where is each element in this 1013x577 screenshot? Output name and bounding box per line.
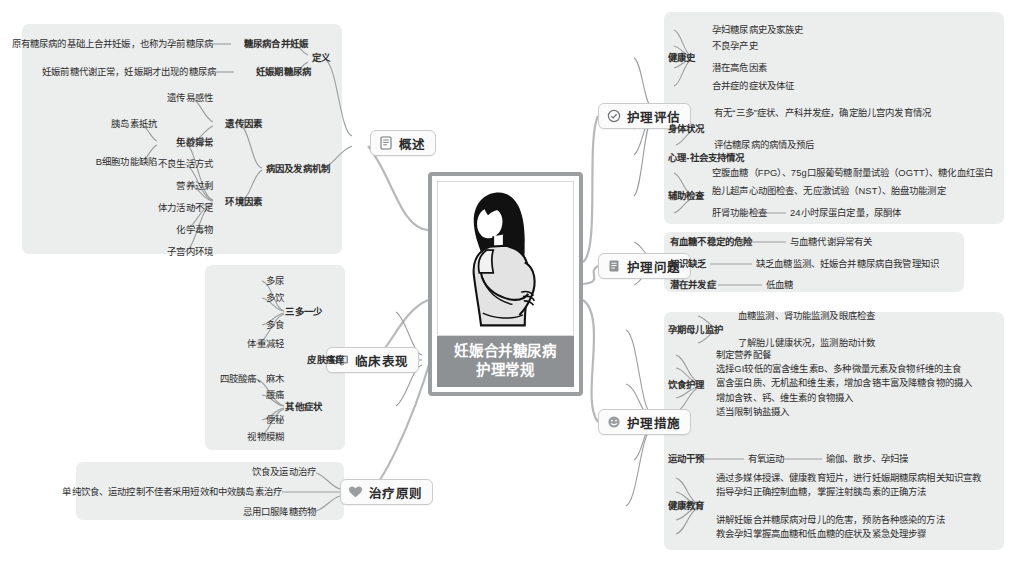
overview-environment-item-4[interactable]: 化学毒物 xyxy=(176,224,213,236)
measures-group-3-item-1[interactable]: 指导孕妇正确控制血糖，掌握注射胰岛素的正确方法 xyxy=(716,486,926,498)
measures-group-3-item-0[interactable]: 通过多媒体授课、健康教育短片，进行妊娠期糖尿病相关知识宣教 xyxy=(716,472,981,484)
assessment-group-1-label[interactable]: 身体状况 xyxy=(668,123,705,135)
measures-group-2-chain[interactable]: 瑜伽、散步、孕妇操 xyxy=(826,453,908,465)
measures-group-0-item-0[interactable]: 血糖监测、肾功能监测及眼底检查 xyxy=(738,310,875,322)
measures-group-1-item-2[interactable]: 富含蛋白质、无机盐和维生素，增加含铬丰富及降糖食物的摄入 xyxy=(716,377,972,389)
heart-icon xyxy=(348,485,363,500)
center-title: 妊娠合并糖尿病 护理常规 xyxy=(437,336,574,387)
measures-group-0-item-1[interactable]: 了解胎儿健康状况，监测胎动计数 xyxy=(738,337,875,349)
clinical-group-0-item-0[interactable]: 多尿 xyxy=(266,275,284,287)
overview-environment-item-5[interactable]: 子宫内环境 xyxy=(167,246,213,258)
assessment-group-0-item-2[interactable]: 潜在高危因素 xyxy=(712,62,767,74)
assessment-group-3-item-1[interactable]: 胎儿超声心动图检查、无应激试验（NST）、胎盘功能测定 xyxy=(712,185,946,197)
clinical-group-0-item-3[interactable]: 体重减轻 xyxy=(247,338,284,350)
branch-label: 概述 xyxy=(399,134,426,153)
center-node[interactable]: 妊娠合并糖尿病 护理常规 xyxy=(428,172,583,396)
center-title-line2: 护理常规 xyxy=(439,361,572,380)
clinical-group-1-label[interactable]: 皮肤瘙痒 xyxy=(307,354,344,366)
branch-node-treatment[interactable]: 治疗原则 xyxy=(340,479,433,505)
overview-definition-detail-1[interactable]: 妊娠前糖代谢正常，妊娠期才出现的糖尿病 xyxy=(42,66,216,78)
overview-etiology-label[interactable]: 病因及发病机制 xyxy=(266,163,330,175)
branch-node-measures[interactable]: 护理措施 xyxy=(598,409,691,435)
overview-definition-item-0[interactable]: 糖尿病合并妊娠 xyxy=(244,38,308,50)
measures-group-1-item-3[interactable]: 增加含铁、钙、维生素的食物摄入 xyxy=(716,392,853,404)
assessment-group-0-item-0[interactable]: 孕妇糖尿病史及家族史 xyxy=(712,24,804,36)
assessment-group-1-item-1[interactable]: 评估糖尿病的病情及预后 xyxy=(714,139,815,151)
assessment-group-3-item-2[interactable]: 肝肾功能检查 xyxy=(712,207,767,219)
measures-group-2-item-0[interactable]: 有氧运动 xyxy=(748,453,785,465)
mindmap-canvas: 妊娠合并糖尿病 护理常规 概述 临床表现 治疗原则 护理评估 护理问题 xyxy=(0,0,1013,577)
measures-group-1-item-0[interactable]: 制定营养配餐 xyxy=(716,349,771,361)
treatment-item-1[interactable]: 单纯饮食、运动控制不佳者采用短效和中效胰岛素治疗 xyxy=(62,486,282,498)
measures-group-1-item-1[interactable]: 选择GI较低的富含维生素B、多种微量元素及食物纤维的主食 xyxy=(716,363,961,375)
list-icon xyxy=(606,259,621,274)
measures-group-3-label[interactable]: 健康教育 xyxy=(668,500,705,512)
overview-definition-detail-0[interactable]: 原有糖尿病的基础上合并妊娠，也称为孕前糖尿病 xyxy=(12,38,213,50)
problems-item-0-detail[interactable]: 与血糖代谢异常有关 xyxy=(790,236,872,248)
overview-environment-item-0[interactable]: 年龄增长 xyxy=(176,136,213,148)
assessment-group-1-item-0[interactable]: 有无“三多”症状、产科并发症，确定胎儿宫内发育情况 xyxy=(714,107,931,119)
assessment-group-0-label[interactable]: 健康史 xyxy=(668,52,695,64)
measures-group-3-item-2[interactable]: 讲解妊娠合并糖尿病对母儿的危害，预防各种感染的方法 xyxy=(716,514,945,526)
overview-environment-item-3[interactable]: 体力活动不足 xyxy=(158,202,213,214)
treatment-item-0[interactable]: 饮食及运动治疗 xyxy=(252,466,316,478)
assessment-group-0-item-3[interactable]: 合并症的症状及体征 xyxy=(712,80,794,92)
check-circle-icon xyxy=(606,109,621,124)
branch-label: 治疗原则 xyxy=(369,483,423,502)
measures-group-0-label[interactable]: 孕期母儿监护 xyxy=(668,324,723,336)
clinical-group-2-item-3[interactable]: 视物模糊 xyxy=(247,431,284,443)
overview-genetic-item-0[interactable]: 遗传易感性 xyxy=(167,92,213,104)
branch-label: 护理措施 xyxy=(627,413,681,432)
clinical-group-0-item-2[interactable]: 多食 xyxy=(266,319,284,331)
clinical-group-0-label[interactable]: 三多一少 xyxy=(285,306,322,318)
branch-node-overview[interactable]: 概述 xyxy=(370,130,436,156)
clinical-group-2-item-2[interactable]: 便秘 xyxy=(266,414,284,426)
problems-item-0-label[interactable]: 有血糖不稳定的危险 xyxy=(670,236,752,248)
problems-item-2-detail[interactable]: 低血糖 xyxy=(766,279,793,291)
assessment-group-3-item-0[interactable]: 空腹血糖（FPG）、75g口服葡萄糖耐量试验（OGTT）、糖化血红蛋白 xyxy=(712,167,993,179)
clinical-group-2-item-1[interactable]: 腰痛 xyxy=(266,389,284,401)
overview-environment-item-1[interactable]: 不良生活方式 xyxy=(158,158,213,170)
pregnant-woman-illustration xyxy=(437,181,574,336)
branch-label: 临床表现 xyxy=(355,351,409,370)
overview-environment-item-2[interactable]: 营养过剩 xyxy=(176,180,213,192)
measures-group-1-item-4[interactable]: 适当限制钠盐摄入 xyxy=(716,406,789,418)
assessment-subdetail[interactable]: 24小时尿蛋白定量，尿酮体 xyxy=(790,207,901,219)
book-icon xyxy=(378,136,393,151)
assessment-group-0-item-1[interactable]: 不良孕产史 xyxy=(712,40,758,52)
overview-immune-child-1[interactable]: B细胞功能缺陷 xyxy=(96,156,157,168)
clinical-group-0-item-1[interactable]: 多饮 xyxy=(266,292,284,304)
problems-item-1-detail[interactable]: 缺乏血糖监测、妊娠合并糖尿病自我管理知识 xyxy=(756,258,939,270)
clinical-group-2-label[interactable]: 其他症状 xyxy=(285,401,322,413)
measures-group-2-label[interactable]: 运动干预 xyxy=(668,453,705,465)
assessment-group-3-label[interactable]: 辅助检查 xyxy=(668,190,705,202)
measures-group-1-label[interactable]: 饮食护理 xyxy=(668,379,705,391)
overview-definition-item-1[interactable]: 妊娠期糖尿病 xyxy=(256,66,311,78)
smiley-icon xyxy=(606,415,621,430)
measures-group-3-item-3[interactable]: 教会孕妇掌握高血糖和低血糖的症状及紧急处理步骤 xyxy=(716,528,926,540)
assessment-group-2-label[interactable]: 心理-社会支持情况 xyxy=(668,152,744,164)
overview-environment-label[interactable]: 环境因素 xyxy=(225,196,262,208)
clinical-group-2-item-0[interactable]: 四肢酸痛、麻木 xyxy=(220,373,284,385)
problems-item-2-label[interactable]: 潜在并发症 xyxy=(670,279,716,291)
overview-genetic-label[interactable]: 遗传因素 xyxy=(225,118,262,130)
treatment-item-2[interactable]: 忌用口服降糖药物 xyxy=(243,506,316,518)
problems-item-1-label[interactable]: 知识缺乏 xyxy=(670,258,707,270)
overview-immune-child-0[interactable]: 胰岛素抵抗 xyxy=(111,118,157,130)
overview-definition-label[interactable]: 定义 xyxy=(312,52,330,64)
center-title-line1: 妊娠合并糖尿病 xyxy=(439,342,572,361)
